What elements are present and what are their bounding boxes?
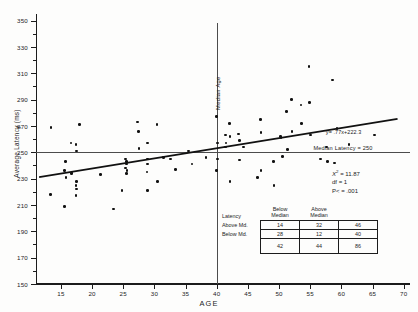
table-col-header-above: Above Median bbox=[300, 204, 339, 221]
x-tick-label-50: 50 bbox=[270, 290, 288, 297]
x-tick-label-30: 30 bbox=[145, 290, 163, 297]
data-point bbox=[331, 79, 334, 82]
x-tick-50 bbox=[279, 284, 280, 289]
table-cell-below-total: 40 bbox=[339, 230, 378, 239]
data-point bbox=[229, 180, 232, 183]
median-age-label: Median Age bbox=[215, 77, 221, 111]
x-tick-label-35: 35 bbox=[177, 290, 195, 297]
x-tick-15 bbox=[61, 284, 62, 289]
data-point bbox=[256, 176, 259, 179]
x-tick-65 bbox=[373, 284, 374, 289]
data-point bbox=[319, 158, 322, 161]
table-totals-label bbox=[222, 239, 261, 254]
data-point bbox=[156, 180, 159, 183]
x-tick-40 bbox=[217, 284, 218, 289]
data-point bbox=[229, 135, 232, 138]
table-row: Below Md. 28 12 40 bbox=[222, 230, 378, 239]
table-cell-below-above: 12 bbox=[300, 230, 339, 239]
data-point bbox=[75, 184, 78, 187]
data-point bbox=[146, 158, 149, 161]
x-tick-25 bbox=[123, 284, 124, 289]
data-point bbox=[50, 126, 53, 129]
scatter-plot-figure: 150170190210230250270290310330350 152025… bbox=[0, 0, 418, 312]
y-tick-label-310: 310 bbox=[2, 70, 28, 77]
x-tick-label-55: 55 bbox=[301, 290, 319, 297]
x-tick-70 bbox=[404, 284, 405, 289]
x-tick-label-65: 65 bbox=[364, 290, 382, 297]
data-point bbox=[290, 98, 293, 101]
chi-square-stat: X2 = 11.87 bbox=[332, 168, 360, 178]
data-point bbox=[78, 123, 81, 126]
x-tick-45 bbox=[248, 284, 249, 289]
chi-square-value: = 11.87 bbox=[340, 171, 360, 177]
table-row: Above Md. 14 32 46 bbox=[222, 221, 378, 230]
y-axis-title: Average Latency (ms) bbox=[13, 102, 20, 186]
median-latency-label: Median Latency = 250 bbox=[313, 145, 372, 151]
table-header-row: Latency Below Median Above Median bbox=[222, 204, 378, 221]
x-tick-20 bbox=[92, 284, 93, 289]
table-grand-total: 86 bbox=[339, 239, 378, 254]
data-point bbox=[49, 193, 52, 196]
table-cell-above-total: 46 bbox=[339, 221, 378, 230]
data-point bbox=[156, 123, 159, 126]
data-point bbox=[138, 147, 141, 150]
data-point bbox=[125, 172, 128, 175]
regression-equation-label: y= .77x+222.3 bbox=[326, 129, 361, 135]
data-point bbox=[75, 143, 78, 146]
degrees-of-freedom: df = 1 bbox=[332, 178, 360, 186]
data-point bbox=[272, 160, 275, 163]
x-tick-label-45: 45 bbox=[239, 290, 257, 297]
table-corner-label: Latency bbox=[222, 204, 261, 221]
col-header-above-line2: Median bbox=[300, 212, 339, 218]
y-tick-150 bbox=[31, 284, 36, 285]
data-point bbox=[63, 205, 66, 208]
x-tick-label-15: 15 bbox=[52, 290, 70, 297]
y-tick-label-190: 190 bbox=[2, 228, 28, 235]
data-point bbox=[259, 118, 262, 121]
table-row-label-below-md: Below Md. bbox=[222, 230, 261, 239]
table-total-above: 44 bbox=[300, 239, 339, 254]
data-point bbox=[65, 176, 68, 179]
data-point bbox=[75, 150, 78, 153]
x-tick-label-40: 40 bbox=[208, 290, 226, 297]
x-axis-title: AGE bbox=[0, 299, 418, 308]
x-tick-label-70: 70 bbox=[395, 290, 413, 297]
table-cell-above-above: 32 bbox=[300, 221, 339, 230]
col-header-below-line2: Median bbox=[261, 212, 300, 218]
x-tick-55 bbox=[310, 284, 311, 289]
contingency-table: Latency Below Median Above Median Above … bbox=[222, 204, 378, 254]
p-value: P< = .001 bbox=[332, 187, 360, 195]
data-point bbox=[216, 158, 219, 161]
data-point bbox=[112, 208, 115, 211]
x-tick-label-60: 60 bbox=[332, 290, 350, 297]
data-point bbox=[281, 155, 284, 158]
data-point bbox=[286, 148, 289, 151]
table-cell-below-below: 28 bbox=[261, 230, 300, 239]
contingency-table-grid: Latency Below Median Above Median Above … bbox=[222, 204, 378, 254]
x-tick-30 bbox=[154, 284, 155, 289]
data-point bbox=[146, 189, 149, 192]
table-row-label-above-md: Above Md. bbox=[222, 221, 261, 230]
data-point bbox=[237, 133, 240, 136]
data-point bbox=[285, 110, 288, 113]
table-cell-above-below: 14 bbox=[261, 221, 300, 230]
data-point bbox=[326, 160, 329, 163]
chi-square-exponent: 2 bbox=[336, 169, 338, 174]
data-point bbox=[238, 139, 241, 142]
data-point bbox=[99, 173, 102, 176]
x-tick-label-20: 20 bbox=[83, 290, 101, 297]
table-totals-row: 42 44 86 bbox=[222, 239, 378, 254]
data-point bbox=[169, 158, 172, 161]
y-tick-label-210: 210 bbox=[2, 202, 28, 209]
data-point bbox=[174, 168, 177, 171]
table-col-header-total bbox=[339, 204, 378, 221]
data-point bbox=[63, 169, 66, 172]
data-point bbox=[333, 162, 336, 165]
data-point bbox=[308, 101, 311, 104]
data-point bbox=[228, 122, 231, 125]
y-tick-label-350: 350 bbox=[2, 17, 28, 24]
data-point bbox=[75, 180, 78, 183]
x-tick-35 bbox=[186, 284, 187, 289]
x-tick-label-25: 25 bbox=[114, 290, 132, 297]
data-point bbox=[137, 130, 140, 133]
